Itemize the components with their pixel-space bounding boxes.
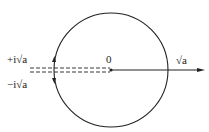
origin-label: 0 xyxy=(106,53,112,65)
contour-diagram: 0 √a +i√a −i√a xyxy=(0,0,209,132)
origin-point xyxy=(109,68,112,71)
minus-i-sqrt-a-label: −i√a xyxy=(7,78,27,90)
axis-arrow-icon xyxy=(197,68,205,72)
sqrt-a-label: √a xyxy=(176,54,187,66)
plus-i-sqrt-a-label: +i√a xyxy=(7,53,27,65)
